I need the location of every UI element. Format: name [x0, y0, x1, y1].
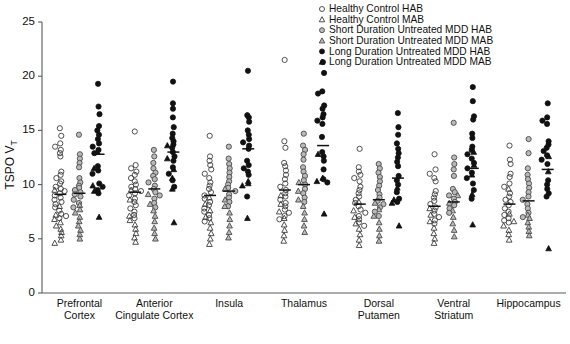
- data-point-prefrontal-cortex-2: [96, 191, 101, 196]
- x-axis-label-ventral-striatum: Ventral: [437, 297, 470, 309]
- data-point-anterior-cingulate-cortex-2: [170, 178, 175, 183]
- data-point-anterior-cingulate-cortex-2: [164, 156, 170, 161]
- data-point-thalamus-0: [281, 233, 287, 238]
- data-point-anterior-cingulate-cortex-1: [152, 154, 157, 159]
- data-point-thalamus-2: [321, 70, 326, 75]
- data-point-hippocampus-0: [507, 181, 512, 186]
- data-point-insula-0: [208, 230, 214, 235]
- data-point-insula-2: [247, 119, 252, 124]
- data-point-hippocampus-0: [502, 184, 507, 189]
- data-point-hippocampus-2: [545, 101, 550, 106]
- data-point-hippocampus-0: [508, 171, 513, 176]
- data-point-dorsal-putamen-0: [357, 146, 362, 151]
- data-point-thalamus-0: [282, 160, 287, 165]
- data-point-thalamus-2: [319, 134, 324, 139]
- data-point-insula-1: [226, 156, 231, 161]
- data-point-dorsal-putamen-1: [376, 238, 382, 243]
- data-point-thalamus-0: [282, 57, 287, 62]
- data-point-anterior-cingulate-cortex-2: [170, 115, 175, 120]
- data-point-thalamus-0: [283, 145, 288, 150]
- legend-label-5: Long Duration Untreated MDD MAB: [329, 56, 492, 67]
- data-point-thalamus-2: [315, 91, 320, 96]
- data-point-anterior-cingulate-cortex-0: [132, 129, 137, 134]
- data-point-dorsal-putamen-2: [394, 141, 399, 146]
- data-point-dorsal-putamen-0: [357, 179, 362, 184]
- data-point-dorsal-putamen-1: [377, 226, 383, 231]
- data-point-insula-0: [202, 209, 207, 214]
- data-point-anterior-cingulate-cortex-1: [152, 213, 158, 218]
- data-point-ventral-striatum-1: [451, 234, 457, 239]
- data-point-ventral-striatum-1: [447, 210, 452, 215]
- data-point-insula-2: [245, 68, 250, 73]
- data-point-dorsal-putamen-2: [396, 132, 401, 137]
- y-tick-label-15: 15: [22, 123, 35, 135]
- data-point-hippocampus-2: [545, 115, 550, 120]
- data-point-anterior-cingulate-cortex-1: [152, 218, 158, 223]
- scatter-plot-figure: 0510152025TSPO VTPrefrontalCortexAnterio…: [0, 0, 570, 344]
- data-point-ventral-striatum-0: [433, 179, 438, 184]
- legend-marker-3: [319, 38, 325, 43]
- data-point-ventral-striatum-1: [450, 221, 456, 226]
- data-point-dorsal-putamen-1: [376, 213, 381, 218]
- legend-marker-4: [320, 49, 325, 54]
- data-point-prefrontal-cortex-1: [76, 165, 81, 170]
- x-axis-label-anterior-cingulate-cortex: Anterior: [136, 297, 173, 309]
- y-tick-label-0: 0: [29, 286, 35, 298]
- data-point-hippocampus-0: [506, 237, 512, 242]
- data-point-thalamus-2: [325, 180, 330, 185]
- x-axis-label-hippocampus: Hippocampus: [496, 297, 560, 309]
- data-point-ventral-striatum-0: [432, 152, 437, 157]
- data-point-thalamus-0: [278, 184, 283, 189]
- data-point-anterior-cingulate-cortex-0: [133, 162, 138, 167]
- data-point-prefrontal-cortex-0: [63, 213, 68, 218]
- data-point-dorsal-putamen-0: [356, 237, 362, 242]
- data-point-hippocampus-1: [526, 194, 531, 199]
- data-point-ventral-striatum-2: [469, 196, 474, 201]
- data-point-ventral-striatum-1: [451, 167, 456, 172]
- data-point-prefrontal-cortex-2: [90, 144, 95, 149]
- data-point-ventral-striatum-1: [446, 193, 451, 198]
- data-point-thalamus-0: [276, 209, 282, 214]
- data-point-insula-2: [246, 162, 251, 167]
- data-point-ventral-striatum-2: [465, 152, 470, 157]
- data-point-anterior-cingulate-cortex-0: [132, 179, 137, 184]
- data-point-prefrontal-cortex-2: [100, 184, 105, 189]
- data-point-ventral-striatum-2: [470, 181, 475, 186]
- data-point-ventral-striatum-1: [451, 120, 456, 125]
- legend-marker-1: [319, 17, 325, 22]
- data-point-insula-2: [247, 136, 252, 141]
- data-point-dorsal-putamen-2: [396, 125, 401, 130]
- data-point-dorsal-putamen-2: [395, 199, 400, 204]
- data-point-thalamus-0: [281, 222, 287, 227]
- x-axis-label-ventral-striatum: Striatum: [434, 309, 473, 321]
- data-point-prefrontal-cortex-1: [78, 194, 83, 199]
- data-point-ventral-striatum-0: [427, 171, 432, 176]
- data-point-thalamus-2: [321, 158, 326, 163]
- data-point-hippocampus-1: [520, 215, 525, 220]
- data-point-prefrontal-cortex-0: [54, 175, 59, 180]
- y-tick-label-20: 20: [22, 69, 35, 81]
- data-point-thalamus-1: [302, 216, 308, 221]
- data-point-dorsal-putamen-0: [356, 242, 362, 247]
- data-point-dorsal-putamen-0: [356, 226, 362, 231]
- data-point-prefrontal-cortex-2: [90, 183, 96, 188]
- x-axis-label-prefrontal-cortex: Cortex: [64, 309, 96, 321]
- data-point-dorsal-putamen-1: [372, 209, 377, 214]
- data-point-prefrontal-cortex-1: [76, 132, 81, 137]
- data-point-ventral-striatum-2: [470, 222, 476, 227]
- data-point-thalamus-2: [320, 121, 325, 126]
- data-point-dorsal-putamen-0: [357, 194, 362, 199]
- data-point-anterior-cingulate-cortex-2: [170, 101, 175, 106]
- data-point-ventral-striatum-0: [432, 236, 438, 241]
- data-point-dorsal-putamen-0: [358, 184, 363, 189]
- data-point-prefrontal-cortex-0: [52, 240, 58, 245]
- data-point-hippocampus-2: [544, 194, 549, 199]
- data-point-hippocampus-0: [507, 174, 512, 179]
- legend-label-3: Short Duration Untreated MDD MAB: [329, 35, 493, 46]
- data-point-thalamus-1: [302, 210, 308, 215]
- data-point-hippocampus-1: [526, 151, 531, 156]
- data-point-anterior-cingulate-cortex-1: [153, 236, 159, 241]
- data-point-ventral-striatum-2: [470, 135, 475, 140]
- legend-marker-0: [320, 7, 325, 12]
- data-point-anterior-cingulate-cortex-1: [152, 177, 157, 182]
